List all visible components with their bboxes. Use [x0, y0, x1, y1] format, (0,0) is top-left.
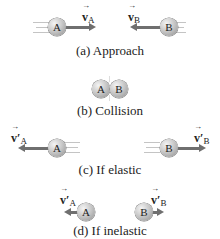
- velocity-label-b: v′B: [194, 131, 209, 146]
- motion-trail: [146, 147, 160, 148]
- caption-collision: (b) Collision: [0, 103, 220, 119]
- ball-b: B: [160, 139, 178, 157]
- impact-spark: [109, 95, 110, 101]
- ball-b: B: [160, 18, 178, 36]
- caption-approach: (a) Approach: [0, 43, 220, 59]
- ball-a: A: [48, 18, 66, 36]
- velocity-label-a: v′A: [11, 131, 27, 146]
- velocity-label-a: vA: [82, 10, 95, 25]
- velocity-label-b: v′B: [151, 193, 166, 208]
- motion-trail: [64, 142, 80, 143]
- ball-a: A: [92, 80, 110, 98]
- motion-trail: [144, 142, 160, 143]
- motion-trail: [33, 32, 51, 33]
- motion-trail: [64, 152, 80, 153]
- caption-inelastic: (d) If inelastic: [0, 223, 220, 239]
- ball-a: A: [48, 139, 66, 157]
- caption-elastic: (c) If elastic: [0, 162, 220, 178]
- ball-b: B: [110, 80, 128, 98]
- impact-spark: [109, 76, 110, 82]
- motion-trail: [144, 152, 160, 153]
- ball-a: A: [77, 203, 95, 221]
- velocity-label-a: v′A: [60, 193, 76, 208]
- motion-trail: [64, 147, 78, 148]
- velocity-label-b: vB: [128, 10, 140, 25]
- velocity-arrow-a: [62, 26, 90, 29]
